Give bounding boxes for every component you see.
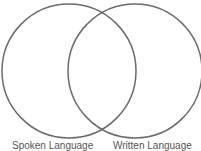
venn-circle-written (68, 4, 201, 138)
venn-circle-spoken (2, 4, 136, 138)
label-written-language: Written Language (113, 140, 192, 151)
venn-diagram (0, 0, 201, 151)
label-spoken-language: Spoken Language (12, 140, 93, 151)
